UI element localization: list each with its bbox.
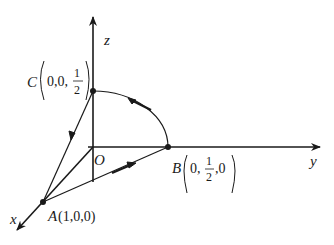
point-b — [165, 144, 171, 150]
segment-c-a — [43, 91, 93, 202]
point-c-prefix: 0,0, — [47, 74, 68, 89]
axes — [17, 17, 320, 230]
point-b-suffix: ,0 — [215, 161, 226, 176]
x-axis-label: x — [9, 211, 17, 227]
segment-a-b — [43, 147, 168, 202]
point-c-frac-den: 2 — [74, 83, 80, 97]
y-axis-label: y — [308, 153, 317, 169]
point-b-frac-den: 2 — [206, 170, 212, 184]
point-b-frac-num: 1 — [206, 154, 212, 168]
coordinate-diagram: z y x O A (1,0,0) B 0, 1 2 ,0 C 0,0, 1 2 — [0, 0, 334, 245]
point-c — [90, 88, 96, 94]
point-b-name: B — [172, 160, 181, 176]
point-a-name: A — [47, 208, 58, 224]
origin-label: O — [94, 152, 105, 168]
z-axis-label: z — [103, 32, 110, 48]
point-b-prefix: 0, — [190, 161, 201, 176]
point-a-coords: (1,0,0) — [58, 209, 96, 225]
direction-arrows — [69, 98, 151, 173]
point-c-name: C — [27, 74, 38, 90]
arrow-c-to-a-icon — [69, 131, 75, 140]
point-c-frac-num: 1 — [74, 66, 80, 80]
point-a — [40, 199, 46, 205]
